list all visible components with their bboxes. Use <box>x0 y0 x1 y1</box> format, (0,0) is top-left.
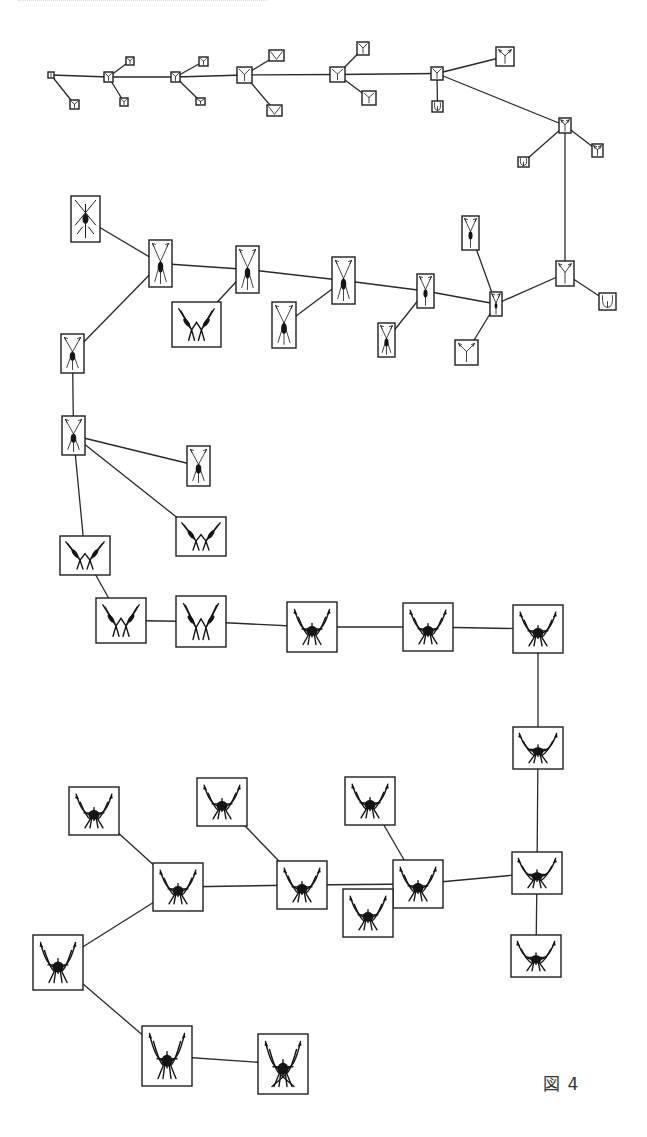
biomorph-node <box>556 261 574 286</box>
biomorph-node <box>272 302 296 348</box>
biomorph-node <box>126 57 134 65</box>
biomorph-node <box>197 778 247 826</box>
biomorph-node <box>153 863 203 911</box>
biomorph-node <box>417 274 434 308</box>
biomorph-node <box>559 118 571 133</box>
biomorph-node <box>462 216 479 250</box>
lineage-edge <box>51 75 109 77</box>
biomorph-node <box>196 98 205 105</box>
biomorph-node <box>512 852 562 894</box>
biomorph-node <box>592 144 603 157</box>
biomorph-node <box>104 72 113 82</box>
biomorph-node <box>176 517 226 556</box>
biomorph-node <box>176 596 226 647</box>
biomorph-node <box>172 302 221 347</box>
biomorph-node <box>171 72 180 82</box>
lineage-edge <box>176 75 245 77</box>
lineage-edge <box>437 57 505 74</box>
node-frame <box>176 517 226 556</box>
biomorph-node <box>403 603 453 651</box>
biomorph-node <box>330 67 345 82</box>
biomorph-node <box>490 292 502 316</box>
biomorph-node <box>496 47 514 66</box>
biomorph-node <box>455 340 478 365</box>
biomorph-node <box>432 101 443 112</box>
biomorph-node <box>343 889 393 937</box>
biomorph-node <box>61 334 84 373</box>
biomorph-node <box>393 860 443 908</box>
biomorph-node <box>511 935 561 977</box>
biomorph-node <box>187 446 210 486</box>
biomorph-node <box>431 67 443 80</box>
biomorph-node <box>199 57 208 66</box>
biomorph-node <box>513 605 563 653</box>
lineage-edge <box>496 274 565 305</box>
figure-caption: 図 4 <box>543 1070 579 1095</box>
biomorph-node <box>149 240 172 287</box>
biomorph-node <box>96 598 146 643</box>
node-frame <box>60 536 110 575</box>
biomorph-node <box>357 42 369 55</box>
lineage-edge <box>437 74 565 126</box>
biomorph-node <box>48 72 54 78</box>
biomorph-node <box>142 1026 192 1086</box>
lineage-edge <box>73 264 161 354</box>
biomorph-node <box>362 91 376 105</box>
biomorph-node <box>518 157 529 167</box>
biomorph-node <box>71 196 100 242</box>
biomorph-node <box>62 416 85 455</box>
lineage-edge <box>344 281 426 292</box>
biomorph-node <box>513 727 563 769</box>
biomorph-node <box>277 861 327 909</box>
biomorph-node <box>599 293 616 310</box>
biomorph-node <box>120 98 128 106</box>
cropped-header-line <box>18 0 268 5</box>
biomorph-node <box>69 787 119 835</box>
biomorph-node <box>378 323 395 357</box>
biomorph-node <box>60 536 110 575</box>
biomorph-node <box>258 1034 308 1094</box>
biomorph-node <box>267 105 282 116</box>
biomorph-node <box>345 777 395 825</box>
node-layer <box>33 42 616 1094</box>
biomorph-node <box>332 257 355 304</box>
lineage-edge <box>245 75 338 76</box>
biomorph-node <box>236 246 259 293</box>
biomorph-node <box>237 67 252 83</box>
biomorph-evolution-diagram <box>0 0 647 1137</box>
lineage-edge <box>338 74 438 75</box>
biomorph-node <box>33 935 83 990</box>
lineage-edge <box>161 264 248 270</box>
lineage-edge <box>248 270 344 281</box>
edge-layer <box>51 49 608 1065</box>
biomorph-node <box>269 50 284 61</box>
biomorph-node <box>287 602 337 652</box>
biomorph-node <box>70 100 79 109</box>
lineage-edge <box>426 291 497 304</box>
